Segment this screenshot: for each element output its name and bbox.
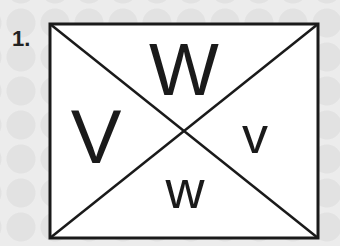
- letter-top: W: [149, 28, 219, 111]
- letter-box-figure: W V v w: [0, 0, 340, 246]
- letter-bottom: w: [165, 159, 206, 219]
- letter-right: v: [242, 106, 268, 164]
- letter-left: V: [71, 94, 122, 179]
